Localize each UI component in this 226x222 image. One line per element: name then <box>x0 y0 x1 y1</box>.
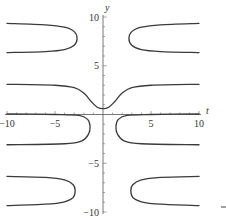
y-tick-label: 10 <box>89 12 99 23</box>
bottom-left-loop <box>7 176 75 205</box>
phase-plot: −10−5510105−5−10ty <box>0 0 226 222</box>
x-tick-label: −10 <box>0 118 15 129</box>
y-tick-label: −5 <box>88 158 99 169</box>
upper-left-loop <box>7 23 77 52</box>
bottom-right-loop <box>131 176 199 205</box>
x-tick-label: −5 <box>50 118 61 129</box>
x-tick-label: 10 <box>194 118 204 129</box>
axis-labels: −10−5510105−5−10ty <box>0 2 209 218</box>
y-tick-label: −10 <box>83 207 99 218</box>
lower-right-loop <box>116 114 199 145</box>
upper-right-loop <box>129 23 199 52</box>
x-tick-label: 5 <box>149 118 154 129</box>
lower-left-loop <box>7 114 90 145</box>
y-tick-label: 5 <box>94 60 99 71</box>
x-axis-label: t <box>206 105 209 116</box>
y-axis-label: y <box>104 2 110 13</box>
